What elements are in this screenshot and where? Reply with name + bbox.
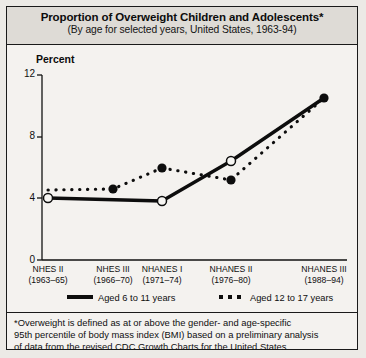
axis-lines (37, 75, 347, 260)
x-tick-name: NHES II (32, 264, 63, 274)
x-axis-tick-nhanes-ii: NHANES II (1976–80) (194, 264, 268, 286)
x-tick-years: (1988–94) (304, 275, 343, 285)
plot-area: Percent 12 8 4 0 (7, 46, 358, 296)
chart-legend: Aged 6 to 11 years Aged 12 to 17 years (7, 293, 358, 313)
footnote-line-1: *Overweight is defined as at or above th… (14, 317, 352, 329)
x-tick-years: (1971–74) (142, 275, 181, 285)
legend-item-aged-6-to-11: Aged 6 to 11 years (67, 293, 175, 303)
legend-label: Aged 12 to 17 years (250, 293, 333, 303)
x-axis-tick-nhanes-iii: NHANES III (1988–94) (287, 264, 358, 286)
x-tick-name: NHANES I (142, 264, 183, 274)
x-axis-tick-nhanes-i: NHANES I (1971–74) (125, 264, 199, 286)
x-axis-tick-nhes-ii: NHES II (1963–65) (11, 264, 85, 286)
chart-card: Proportion of Overweight Children and Ad… (6, 6, 358, 350)
x-tick-years: (1963–65) (28, 275, 67, 285)
chart-svg (7, 46, 358, 296)
x-tick-name: NHANES III (301, 264, 346, 274)
legend-item-aged-12-to-17: Aged 12 to 17 years (219, 293, 333, 303)
x-tick-name: NHANES II (210, 264, 253, 274)
x-tick-years: (1976–80) (211, 275, 250, 285)
chart-header: Proportion of Overweight Children and Ad… (7, 7, 357, 45)
footnote-line-2: 95th percentile of body mass index (BMI)… (14, 329, 352, 341)
footnote: *Overweight is defined as at or above th… (7, 312, 358, 350)
series-aged-12-to-17 (48, 93, 329, 193)
solid-line-icon (67, 295, 93, 299)
chart-subtitle: (By age for selected years, United State… (7, 23, 357, 35)
page-title: Proportion of Overweight Children and Ad… (7, 7, 357, 23)
series-aged-6-to-11 (44, 98, 325, 206)
footnote-line-3: of data from the revised CDC Growth Char… (14, 341, 352, 350)
legend-label: Aged 6 to 11 years (98, 293, 175, 303)
dotted-line-icon (219, 295, 245, 299)
